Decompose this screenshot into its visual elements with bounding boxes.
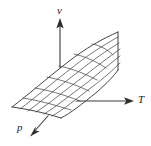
axis-v (56, 18, 63, 68)
pvt-surface-figure: v T p (0, 0, 151, 146)
axis-p-arrowhead-icon (30, 126, 40, 136)
axis-label-T: T (138, 93, 145, 105)
surface-mesh (12, 32, 120, 118)
pvt-surface-svg: v T p (0, 0, 151, 146)
axis-label-p: p (16, 121, 23, 133)
surface-fill-region (12, 32, 118, 118)
axis-label-v: v (57, 4, 62, 16)
